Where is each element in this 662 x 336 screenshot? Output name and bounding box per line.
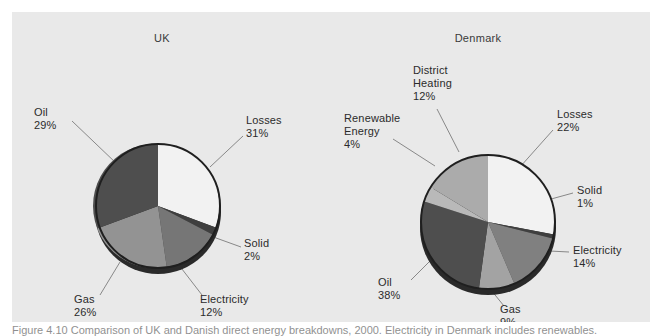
uk-callout-solid: Solid 2% xyxy=(244,237,269,263)
uk-callout-electricity-label: Electricity xyxy=(200,293,249,305)
denmark-callout-losses-value: 22% xyxy=(557,121,593,134)
denmark-pie-svg xyxy=(410,142,570,306)
figure-caption-strip: Figure 4.10 Comparison of UK and Danish … xyxy=(12,326,650,336)
uk-callout-electricity: Electricity 12% xyxy=(200,293,249,319)
uk-callout-gas: Gas 26% xyxy=(74,293,96,319)
uk-pie-svg xyxy=(88,130,236,282)
denmark-callout-electricity-label: Electricity xyxy=(573,244,622,256)
denmark-callout-district-heating: District Heating 12% xyxy=(413,64,452,103)
uk-callout-solid-value: 2% xyxy=(244,250,269,263)
denmark-callout-solid-value: 1% xyxy=(577,197,602,210)
denmark-callout-gas: Gas 9% xyxy=(500,303,521,322)
uk-callout-losses: Losses 31% xyxy=(246,114,282,140)
denmark-callout-district-heating-value: 12% xyxy=(413,90,452,103)
denmark-callout-solid: Solid 1% xyxy=(577,184,602,210)
denmark-callout-gas-label: Gas xyxy=(500,303,521,315)
figure-panel: UK Oil 29% Losses 31% Solid 2% E xyxy=(12,12,650,322)
denmark-callout-renewable-label2: Energy xyxy=(344,125,400,138)
denmark-chart-title: Denmark xyxy=(436,32,520,44)
denmark-callout-district-heating-label2: Heating xyxy=(413,77,452,90)
uk-callout-gas-value: 26% xyxy=(74,306,96,319)
uk-callout-gas-label: Gas xyxy=(74,293,95,305)
denmark-slice-losses xyxy=(488,155,555,235)
denmark-callout-losses-label: Losses xyxy=(557,108,593,120)
uk-callout-electricity-value: 12% xyxy=(200,306,249,319)
denmark-pie-chart xyxy=(410,142,570,302)
uk-chart-title: UK xyxy=(120,32,204,44)
uk-pie-chart xyxy=(88,130,236,278)
denmark-callout-oil-value: 38% xyxy=(378,289,400,302)
uk-callout-oil-label: Oil xyxy=(34,106,48,118)
denmark-callout-solid-label: Solid xyxy=(577,184,602,196)
figure-caption: Figure 4.10 Comparison of UK and Danish … xyxy=(12,326,597,336)
uk-callout-solid-label: Solid xyxy=(244,237,269,249)
denmark-callout-renewable-label1: Renewable xyxy=(344,112,400,124)
denmark-callout-oil-label: Oil xyxy=(378,276,392,288)
denmark-callout-electricity-value: 14% xyxy=(573,257,622,270)
denmark-callout-losses: Losses 22% xyxy=(557,108,593,134)
denmark-callout-gas-value: 9% xyxy=(500,316,521,322)
denmark-callout-district-heating-label1: District xyxy=(413,64,448,76)
denmark-callout-oil: Oil 38% xyxy=(378,276,400,302)
uk-callout-oil-value: 29% xyxy=(34,119,56,132)
uk-callout-oil: Oil 29% xyxy=(34,106,56,132)
uk-callout-losses-label: Losses xyxy=(246,114,282,126)
uk-callout-losses-value: 31% xyxy=(246,127,282,140)
denmark-callout-renewable: Renewable Energy 4% xyxy=(344,112,400,151)
denmark-callout-renewable-value: 4% xyxy=(344,138,400,151)
denmark-callout-electricity: Electricity 14% xyxy=(573,244,622,270)
